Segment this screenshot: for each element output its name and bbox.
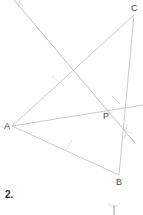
point-label-a: A — [4, 122, 10, 131]
segment-bc — [119, 15, 134, 175]
point-label-p: P — [103, 112, 109, 121]
point-label-b: B — [116, 178, 122, 187]
problem-number: 2. — [5, 190, 13, 200]
perpendicular-bisector-line — [14, 0, 135, 143]
point-label-c: C — [131, 4, 138, 13]
segment-ab — [12, 126, 119, 175]
